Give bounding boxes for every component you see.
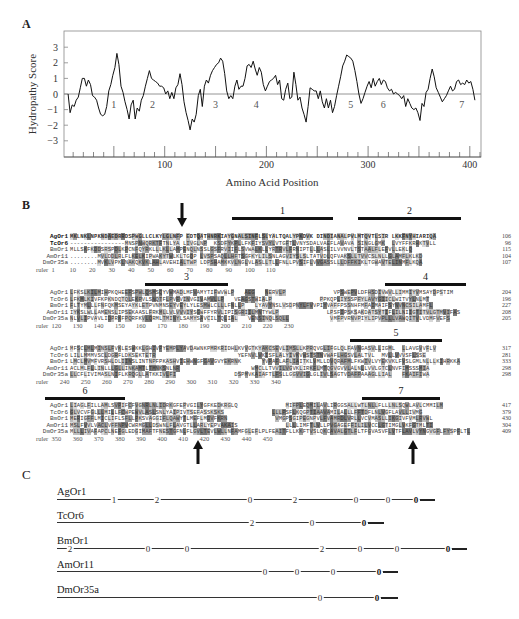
tm-label: 4 bbox=[254, 99, 259, 110]
intron-phase: 0 bbox=[361, 519, 368, 528]
tm-label: 5 bbox=[348, 99, 353, 110]
gene-line bbox=[57, 597, 381, 598]
intron-phase: 0 bbox=[413, 496, 420, 505]
intron-phase: 2 bbox=[292, 496, 299, 505]
tm-bar-label: 7 bbox=[399, 385, 404, 396]
gene-name-dmor35a: DmOr35a bbox=[57, 584, 99, 595]
gene-name-agor1: AgOr1 bbox=[57, 486, 86, 497]
intron-phase: 0 bbox=[445, 545, 452, 554]
intron-phase: 0 bbox=[330, 568, 337, 577]
sequence-end-position: 409 bbox=[483, 428, 511, 435]
gene-name-amor11: AmOr11 bbox=[57, 559, 94, 570]
intron-phase: 0 bbox=[385, 496, 392, 505]
intron-phase: 0 bbox=[357, 545, 364, 554]
intron-phase: 0 bbox=[262, 568, 269, 577]
tm-bar-2 bbox=[358, 217, 461, 220]
y-axis-label: Hydropathy Score bbox=[26, 54, 38, 134]
intron-phase: 0 bbox=[247, 496, 254, 505]
intron-phase: 2 bbox=[154, 496, 161, 505]
x-tick-label: 100 bbox=[157, 159, 172, 170]
intron-phase: 0 bbox=[184, 545, 191, 554]
y-tick-label: −3 bbox=[47, 135, 58, 146]
tm-bar-7 bbox=[362, 397, 440, 400]
intron-phase: 0 bbox=[317, 594, 324, 603]
gene-end-exon bbox=[383, 571, 398, 573]
tm-bar-label: 3 bbox=[184, 271, 189, 282]
tm-label: 6 bbox=[381, 99, 386, 110]
tm-bar-1 bbox=[232, 217, 333, 220]
gene-end-exon bbox=[368, 522, 384, 524]
x-axis-label: Amino Acid Position bbox=[226, 176, 319, 188]
sequence-end-position: 298 bbox=[483, 371, 511, 378]
intron-phase: 0 bbox=[353, 496, 360, 505]
tm-bar-label: 2 bbox=[407, 205, 412, 216]
tm-label: 1 bbox=[111, 99, 116, 110]
tm-bar-label: 5 bbox=[394, 327, 399, 338]
gene-end-exon bbox=[420, 499, 435, 501]
tm-bar-label: 4 bbox=[423, 271, 428, 282]
y-tick-label: 2 bbox=[53, 57, 58, 68]
intron-phase: 1 bbox=[111, 496, 118, 505]
y-tick-label: 1 bbox=[53, 73, 58, 84]
intron-phase: 2 bbox=[319, 545, 326, 554]
sequence-end-position: 205 bbox=[483, 315, 511, 322]
down-arrow-top bbox=[177, 203, 187, 229]
tm-segment-labels: 1234567 bbox=[111, 99, 464, 110]
hydropathy-line bbox=[68, 53, 475, 129]
tm-bar-label: 6 bbox=[83, 385, 88, 396]
up-arrow-left bbox=[193, 440, 203, 464]
tm-bar-5 bbox=[350, 339, 442, 342]
tm-label: 7 bbox=[459, 99, 464, 110]
tm-label: 3 bbox=[213, 99, 218, 110]
intron-phase: 2 bbox=[67, 545, 74, 554]
gene-name-tcor6: TcOr6 bbox=[57, 510, 84, 521]
tm-bar-4 bbox=[385, 283, 466, 286]
panel-label-c: C bbox=[22, 467, 31, 483]
tm-label: 2 bbox=[150, 99, 155, 110]
intron-phase: 2 bbox=[249, 519, 256, 528]
intron-phase: 0 bbox=[376, 568, 383, 577]
alignment-ruler: ruler 1 10 20 30 40 50 60 70 80 90 100 1… bbox=[36, 266, 276, 273]
gene-line bbox=[57, 548, 452, 549]
y-tick-label: 3 bbox=[53, 42, 58, 53]
alignment-ruler: ruler 350 360 370 380 390 400 410 420 43… bbox=[36, 435, 273, 442]
tm-bar-label: 1 bbox=[280, 205, 285, 216]
y-tick-label: −2 bbox=[47, 120, 58, 131]
tm-bar-6 bbox=[45, 397, 125, 400]
gene-end-exon bbox=[381, 597, 398, 599]
x-tick-label: 400 bbox=[462, 159, 477, 170]
alignment-ruler: ruler 120 130 140 150 160 170 180 190 20… bbox=[36, 322, 294, 329]
intron-phase: 0 bbox=[294, 568, 301, 577]
x-tick-label: 200 bbox=[259, 159, 274, 170]
x-axis-ticks: 100200300400 bbox=[64, 146, 481, 170]
tm-bar-3 bbox=[145, 283, 228, 286]
x-tick-label: 300 bbox=[361, 159, 376, 170]
up-arrow-right bbox=[408, 440, 418, 464]
intron-phase: 0 bbox=[374, 594, 381, 603]
intron-phase: 0 bbox=[309, 519, 316, 528]
panel-label-b: B bbox=[22, 198, 30, 213]
y-tick-label: −1 bbox=[47, 104, 58, 115]
y-tick-label: 0 bbox=[53, 89, 58, 100]
sequence-end-position: 107 bbox=[483, 259, 511, 266]
hydropathy-chart: −3−2−10123 100200300400 1234567 Amino Ac… bbox=[0, 0, 519, 190]
gene-line bbox=[57, 522, 368, 523]
gene-end-exon bbox=[452, 548, 467, 550]
intron-phase: 0 bbox=[145, 545, 152, 554]
intron-phase: 0 bbox=[394, 545, 401, 554]
alignment-ruler: ruler 240 250 260 270 280 290 300 310 32… bbox=[36, 378, 281, 385]
